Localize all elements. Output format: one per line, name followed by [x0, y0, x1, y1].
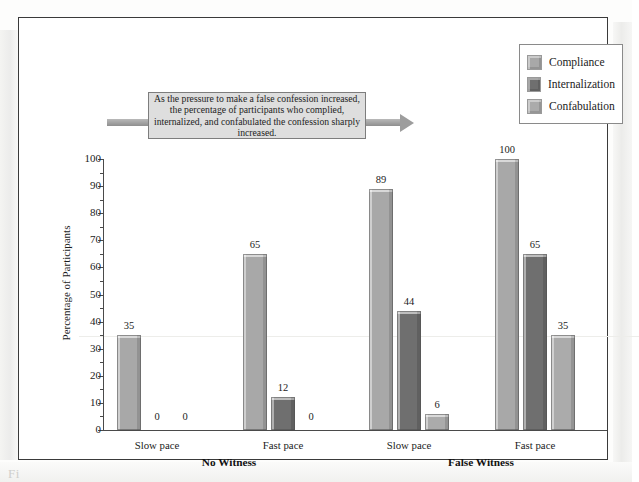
legend-swatch-icon [527, 99, 542, 114]
y-tick-minor [100, 416, 103, 417]
y-tick-label: 10 [75, 396, 101, 408]
y-tick-label: 100 [75, 152, 101, 164]
bar-outline [495, 159, 519, 430]
y-tick-minor [100, 200, 103, 201]
x-group-label-4: Fast pace [475, 439, 595, 451]
bar-outline [369, 189, 393, 430]
y-axis-line [103, 159, 104, 430]
legend-swatch-icon [527, 77, 541, 92]
y-tick-label: 80 [75, 206, 101, 218]
bar-value-label: 44 [391, 296, 427, 307]
bar-value-label: 6 [419, 399, 455, 410]
legend-item-confabulation: Confabulation [527, 95, 615, 117]
bar-compliance-g1 [117, 335, 141, 430]
legend-label: Confabulation [549, 100, 615, 112]
callout-arrow-head-icon [400, 114, 414, 132]
bar-value-label: 89 [363, 174, 399, 185]
bar-compliance-g2 [243, 254, 267, 430]
callout-box: As the pressure to make a false confessi… [148, 92, 366, 139]
legend-label: Compliance [549, 56, 605, 68]
legend-item-internalization: Internalization [527, 73, 615, 95]
y-tick-label: 20 [75, 369, 101, 381]
bar-value-label: 0 [167, 411, 203, 422]
y-tick-label: 0 [75, 423, 101, 435]
y-tick-minor [100, 362, 103, 363]
bar-value-label: 12 [265, 382, 301, 393]
bar-value-label: 65 [237, 239, 273, 250]
chart-legend: ComplianceInternalizationConfabulation [519, 44, 623, 124]
x-axis-line [103, 430, 607, 431]
page-gutter-shadow-left [0, 30, 18, 460]
bar-internalization-g3 [397, 311, 421, 430]
bar-value-label: 0 [293, 411, 329, 422]
y-tick-label: 30 [75, 342, 101, 354]
y-tick-minor [100, 281, 103, 282]
bar-value-label: 35 [111, 320, 147, 331]
y-tick-minor [100, 254, 103, 255]
callout-text: As the pressure to make a false confessi… [149, 93, 365, 139]
y-tick-label: 60 [75, 260, 101, 272]
callout-arrow-shaft [366, 119, 403, 126]
bar-outline [243, 254, 267, 430]
callout-arrow-stub [107, 119, 149, 126]
x-group-label-2: Fast pace [223, 439, 343, 451]
y-tick-minor [100, 308, 103, 309]
y-axis-title-wrap: Percentage of Participants [59, 159, 73, 430]
bar-confabulation-g4 [551, 335, 575, 430]
bar-internalization-g2 [271, 397, 295, 430]
bar-outline [397, 311, 421, 430]
y-tick-label: 50 [75, 288, 101, 300]
bar-compliance-g3 [369, 189, 393, 430]
bar-compliance-g4 [495, 159, 519, 430]
y-tick-minor [100, 227, 103, 228]
bar-outline [271, 397, 295, 430]
x-condition-label-1: No Witness [103, 456, 355, 468]
legend-item-compliance: Compliance [527, 51, 615, 73]
caption-ghost: Fi [8, 466, 20, 482]
y-tick-label: 70 [75, 233, 101, 245]
x-condition-label-2: False Witness [355, 456, 607, 468]
y-tick-minor [100, 389, 103, 390]
y-tick-label: 40 [75, 315, 101, 327]
bar-value-label: 35 [545, 320, 581, 331]
x-group-label-3: Slow pace [349, 439, 469, 451]
bar-outline [425, 414, 449, 430]
y-tick-minor [100, 173, 103, 174]
bar-confabulation-g3 [425, 414, 449, 430]
y-axis-title: Percentage of Participants [60, 208, 72, 358]
x-group-label-1: Slow pace [97, 439, 217, 451]
bar-outline [551, 335, 575, 430]
plot-area: 0102030405060708090100350065120894461006… [103, 159, 607, 430]
figure-frame: ComplianceInternalizationConfabulation A… [18, 17, 608, 460]
y-tick-minor [100, 335, 103, 336]
bar-value-label: 65 [517, 239, 553, 250]
bar-outline [117, 335, 141, 430]
bar-value-label: 100 [489, 144, 525, 155]
bar-internalization-g4 [523, 254, 547, 430]
legend-label: Internalization [548, 78, 615, 90]
legend-swatch-icon [527, 55, 542, 70]
y-tick-label: 90 [75, 179, 101, 191]
bar-outline [523, 254, 547, 430]
